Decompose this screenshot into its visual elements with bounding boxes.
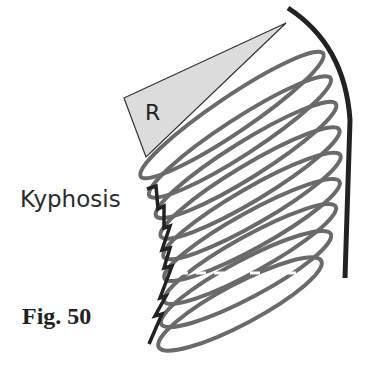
sternum-zigzag xyxy=(147,186,172,344)
wedge-label: R xyxy=(145,100,160,125)
figure-caption: Fig. 50 xyxy=(22,303,91,330)
kyphosis-label: Kyphosis xyxy=(20,186,121,212)
